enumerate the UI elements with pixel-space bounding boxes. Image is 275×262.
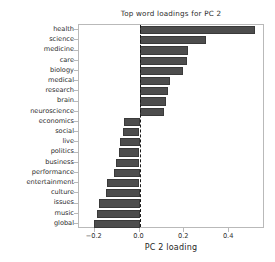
bar-biology [140, 67, 184, 75]
bar-row [79, 168, 263, 178]
y-tick-label-science: science [49, 34, 74, 44]
y-tick-label-health: health [53, 24, 74, 34]
y-tick-label-brain: brain [57, 95, 74, 105]
bar-medicine [140, 46, 188, 54]
y-tick-label-neuroscience: neuroscience [30, 106, 74, 116]
bar-brain [140, 97, 167, 105]
y-tick-label-care: care [60, 55, 74, 65]
bar-row [79, 96, 263, 106]
y-tick-label-performance: performance [32, 167, 74, 177]
plot-area [78, 24, 264, 228]
bar-row [79, 25, 263, 35]
y-tick-label-medicine: medicine [44, 44, 74, 54]
bar-medical [140, 77, 171, 85]
bar-row [79, 45, 263, 55]
bar-economics [124, 118, 139, 126]
bar-row [79, 66, 263, 76]
bar-row [79, 56, 263, 66]
y-tick-label-business: business [45, 157, 74, 167]
bar-research [140, 87, 169, 95]
bar-row [79, 147, 263, 157]
bar-row [79, 219, 263, 229]
bar-row [79, 188, 263, 198]
bar-care [140, 57, 188, 65]
bar-science [140, 36, 206, 44]
bar-row [79, 209, 263, 219]
bar-entertainment [107, 179, 139, 187]
bar-row [79, 127, 263, 137]
y-tick-label-biology: biology [50, 65, 74, 75]
bar-politics [119, 148, 139, 156]
bar-neuroscience [140, 108, 164, 116]
y-tick-label-medical: medical [48, 75, 74, 85]
y-tick-label-global: global [54, 218, 74, 228]
bar-global [94, 220, 140, 228]
y-tick-label-politics: politics [51, 146, 74, 156]
x-tick-label-0: −0.2 [79, 232, 109, 240]
bar-row [79, 137, 263, 147]
chart-figure: Top word loadings for PC 2 healthscience… [0, 0, 275, 262]
bar-social [123, 128, 139, 136]
bar-row [79, 158, 263, 168]
bar-row [79, 178, 263, 188]
x-axis-title: PC 2 loading [78, 243, 264, 252]
bar-culture [106, 189, 140, 197]
y-tick-label-entertainment: entertainment [27, 177, 74, 187]
y-tick-label-issues: issues [54, 197, 74, 207]
chart-title: Top word loadings for PC 2 [78, 9, 264, 18]
bar-music [97, 210, 140, 218]
x-tick-label-1: 0.0 [124, 232, 154, 240]
bar-health [140, 26, 255, 34]
zero-reference-line [140, 25, 141, 227]
bar-row [79, 86, 263, 96]
y-tick-label-research: research [45, 85, 74, 95]
x-tick-label-3: 0.4 [213, 232, 243, 240]
y-tick-label-social: social [55, 126, 74, 136]
bar-row [79, 117, 263, 127]
y-tick-label-live: live [62, 136, 74, 146]
bar-issues [99, 199, 140, 207]
bar-performance [114, 169, 139, 177]
y-tick-label-music: music [55, 208, 75, 218]
bar-live [120, 138, 140, 146]
bar-business [116, 159, 140, 167]
x-tick-label-2: 0.2 [168, 232, 198, 240]
bar-row [79, 107, 263, 117]
bar-row [79, 35, 263, 45]
y-tick-label-culture: culture [51, 187, 74, 197]
bar-row [79, 198, 263, 208]
y-tick-label-economics: economics [39, 116, 74, 126]
bar-row [79, 76, 263, 86]
